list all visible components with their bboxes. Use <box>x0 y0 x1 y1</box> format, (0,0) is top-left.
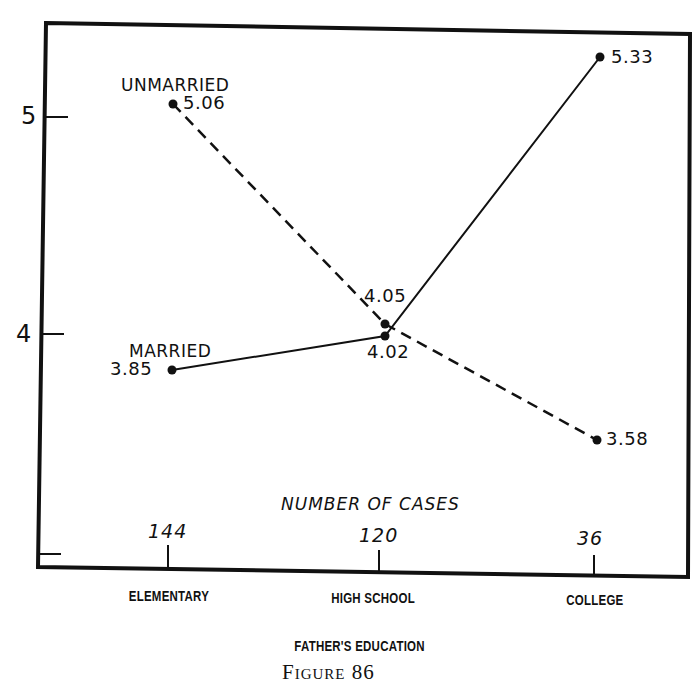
point-married-college <box>596 53 605 62</box>
point-married-highschool <box>381 332 390 341</box>
chart-graphics <box>0 0 697 692</box>
value-married-highschool: 4.02 <box>367 341 409 362</box>
point-unmarried-college <box>593 436 602 445</box>
cases-axis-title: NUMBER OF CASES <box>281 494 460 514</box>
category-label-college: COLLEGE <box>566 592 623 608</box>
point-unmarried-elementary <box>169 100 178 109</box>
point-unmarried-highschool <box>381 320 390 329</box>
x-axis-title: FATHER'S EDUCATION <box>294 638 424 654</box>
line-chart: 5 4 UNMARRIED MARRIED 5.06 4.05 3.58 3.8… <box>0 0 697 692</box>
value-unmarried-elementary: 5.06 <box>183 92 225 113</box>
cases-highschool: 120 <box>359 524 398 546</box>
ytick-label-4: 4 <box>16 320 31 348</box>
figure-caption: Figure 86 <box>282 660 375 685</box>
ytick-label-5: 5 <box>21 102 36 130</box>
value-unmarried-college: 3.58 <box>606 428 648 449</box>
value-unmarried-highschool: 4.05 <box>364 285 406 306</box>
value-married-elementary: 3.85 <box>110 358 152 379</box>
series-unmarried-line <box>173 104 597 440</box>
cases-college: 36 <box>577 527 603 549</box>
category-label-elementary: ELEMENTARY <box>129 588 209 604</box>
category-label-highschool: HIGH SCHOOL <box>331 590 415 606</box>
cases-elementary: 144 <box>148 520 187 542</box>
value-married-college: 5.33 <box>611 46 653 67</box>
point-married-elementary <box>168 366 177 375</box>
